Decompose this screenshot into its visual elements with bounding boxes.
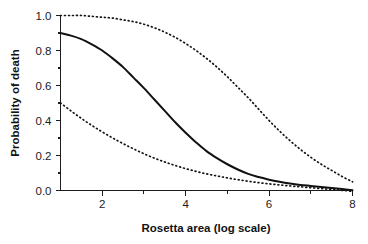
- series-line-dotted: [61, 103, 353, 191]
- probability-of-death-line-chart: Probability of death Rosetta area (log s…: [0, 0, 368, 244]
- y-tick-label: 0.6: [36, 80, 52, 92]
- y-tick-label: 0.8: [36, 45, 52, 57]
- y-tick-label: 0.0: [36, 185, 52, 197]
- x-tick-label: 8: [349, 198, 355, 210]
- y-tick-label: 0.2: [36, 150, 52, 162]
- chart-series-group: [61, 15, 353, 191]
- chart-figure: Probability of death Rosetta area (log s…: [0, 0, 368, 244]
- y-tick-label: 0.4: [36, 115, 53, 127]
- x-tick-label: 2: [99, 198, 105, 210]
- x-tick-label: 4: [182, 198, 189, 210]
- y-axis-title: Probability of death: [9, 49, 21, 156]
- y-axis-ticks: 0.00.20.40.60.81.0: [36, 10, 61, 197]
- y-tick-label: 1.0: [36, 10, 52, 22]
- x-axis-ticks: 2468: [99, 191, 356, 210]
- x-axis-title: Rosetta area (log scale): [141, 222, 270, 234]
- series-line-dotted: [61, 15, 353, 181]
- x-tick-label: 6: [266, 198, 272, 210]
- series-line-solid: [61, 33, 353, 190]
